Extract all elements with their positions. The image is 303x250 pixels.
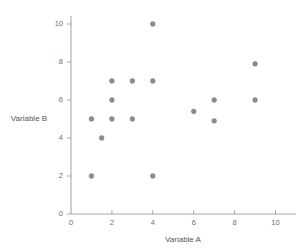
y-tick-label: 4 xyxy=(59,133,63,142)
data-point xyxy=(89,117,94,122)
y-tick-label: 2 xyxy=(59,171,63,180)
data-point xyxy=(253,98,258,103)
y-tick-label: 0 xyxy=(59,209,63,218)
data-point xyxy=(150,79,155,84)
data-point xyxy=(130,79,135,84)
y-tick-label: 10 xyxy=(55,19,63,28)
data-point xyxy=(212,119,217,124)
data-point xyxy=(150,174,155,179)
data-points-group xyxy=(89,22,257,179)
x-tick-label: 2 xyxy=(110,218,114,227)
x-tick-label: 0 xyxy=(69,218,73,227)
data-point xyxy=(110,117,115,122)
data-point xyxy=(99,136,104,141)
scatter-plot-figure: 0246810 0246810 Variable A Variable B xyxy=(0,0,303,250)
x-axis-title: Variable A xyxy=(165,235,202,244)
data-point xyxy=(110,79,115,84)
data-point xyxy=(89,174,94,179)
data-point xyxy=(253,62,258,67)
data-point xyxy=(212,98,217,103)
x-tick-label: 10 xyxy=(271,218,279,227)
data-point xyxy=(130,117,135,122)
data-point xyxy=(110,98,115,103)
y-tick-label: 6 xyxy=(59,95,63,104)
x-tick-label: 4 xyxy=(151,218,155,227)
y-tick-label: 8 xyxy=(59,57,63,66)
data-point xyxy=(150,22,155,27)
x-axis-ticks: 0246810 xyxy=(69,210,280,227)
y-axis-ticks: 0246810 xyxy=(55,19,71,218)
data-point xyxy=(191,109,196,114)
x-tick-label: 6 xyxy=(192,218,196,227)
axes-group xyxy=(71,16,296,214)
x-tick-label: 8 xyxy=(233,218,237,227)
plot-canvas: 0246810 0246810 Variable A Variable B xyxy=(0,0,303,250)
y-axis-title: Variable B xyxy=(11,114,47,123)
